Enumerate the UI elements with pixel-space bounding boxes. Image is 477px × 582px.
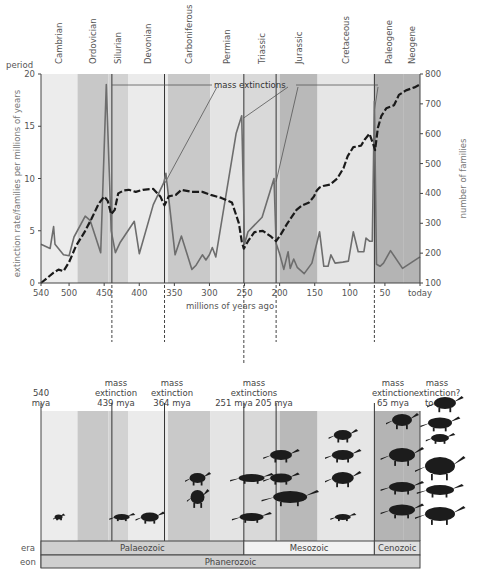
- x-tick-label: 300: [201, 288, 217, 298]
- period-band-permian: [210, 74, 244, 283]
- mammal-9-icon: [415, 506, 466, 525]
- timeline-band-permian: [210, 411, 244, 541]
- timeline-label: 540: [33, 388, 49, 398]
- timeline-label: 364 mya: [153, 398, 190, 408]
- period-label-carboniferous: Carboniferous: [184, 4, 194, 64]
- period-label-neogene: Neogene: [407, 26, 417, 64]
- x-tick-label: 200: [272, 288, 288, 298]
- period-label-cretaceous: Cretaceous: [341, 15, 351, 64]
- x-tick-label: 350: [166, 288, 182, 298]
- x-tick-label: 50: [379, 288, 390, 298]
- timeline-label: mass: [161, 378, 184, 388]
- timeline-band-cambrian: [41, 411, 77, 541]
- y-tick-label-right: 700: [425, 99, 441, 109]
- y-axis-title-right: number of families: [458, 138, 468, 219]
- geologic-timeline: 540myamassextinction439 myamassextinctio…: [20, 285, 465, 568]
- y-tick-label-right: 600: [425, 129, 441, 139]
- x-axis-title: millions of years ago: [186, 301, 274, 311]
- timeline-label: extinctions: [231, 388, 278, 398]
- y-axis-title-left: extinction rate/families per millions of…: [12, 89, 22, 277]
- timeline-labels: 540myamassextinction439 myamassextinctio…: [32, 378, 461, 408]
- x-tick-label: today: [408, 288, 432, 298]
- era-label-mesozoic: Mesozoic: [290, 543, 329, 553]
- timeline-band-devonian: [128, 411, 168, 541]
- y-tick-label-right: 300: [425, 218, 441, 228]
- timeline-label: 65 mya: [377, 398, 409, 408]
- x-tick-label: 400: [131, 288, 147, 298]
- timeline-label: extinction: [372, 388, 414, 398]
- period-band-cretaceous: [318, 74, 375, 283]
- timeline-label: mass: [105, 378, 128, 388]
- timeline-bands: [41, 411, 420, 541]
- timeline-label: 439 mya: [97, 398, 134, 408]
- period-labels: periodCambrianOrdovicianSilurianDevonian…: [6, 4, 417, 70]
- era-eon-bars: eraeonPalaeozoicMesozoicCenozoicPhaneroz…: [20, 541, 420, 568]
- mass-extinction-chart: periodCambrianOrdovicianSilurianDevonian…: [0, 0, 477, 582]
- x-tick-label: 540: [33, 288, 49, 298]
- timeline-band-silurian: [108, 411, 128, 541]
- x-tick-label: 250: [236, 288, 252, 298]
- period-label-silurian: Silurian: [113, 32, 123, 64]
- timeline-label: extinction: [95, 388, 137, 398]
- y-tick-label-left: 15: [24, 121, 35, 131]
- timeline-label: mass: [426, 378, 449, 388]
- period-label-cambrian: Cambrian: [54, 23, 64, 64]
- timeline-band-paleogene: [374, 411, 403, 541]
- extinction-rate-plot: mass extinctions 05101520100200300400500…: [12, 69, 468, 311]
- mass-extinctions-label: mass extinctions: [214, 80, 286, 90]
- timeline-label: extinction?: [414, 388, 461, 398]
- period-label-paleogene: Paleogene: [384, 20, 394, 64]
- period-band-neogene: [404, 74, 420, 283]
- mammal-7-icon: [415, 456, 466, 480]
- period-band-cambrian: [41, 74, 77, 283]
- y-tick-label-left: 10: [24, 174, 35, 184]
- period-label-ordovician: Ordovician: [88, 18, 98, 64]
- timeline-label: 251 mya 205 mya: [215, 398, 293, 408]
- era-axis-label: era: [21, 543, 35, 553]
- period-band-silurian: [108, 74, 128, 283]
- y-tick-label-left: 0: [30, 278, 35, 288]
- era-label-palaeozoic: Palaeozoic: [120, 543, 165, 553]
- y-tick-label-right: 500: [425, 159, 441, 169]
- era-label-cenozoic: Cenozoic: [378, 543, 417, 553]
- period-band-jurassic: [280, 74, 318, 283]
- timeline-band-neogene: [404, 411, 420, 541]
- mammal-8-icon: [417, 484, 464, 498]
- mammal-5-icon: [420, 417, 460, 432]
- mammal-6-icon: [426, 433, 456, 444]
- x-tick-label: 100: [342, 288, 358, 298]
- x-tick-label: 150: [307, 288, 323, 298]
- period-label-permian: Permian: [222, 29, 232, 64]
- timeline-label: extinction: [151, 388, 193, 398]
- y-tick-label-left: 20: [24, 69, 35, 79]
- y-tick-label-left: 5: [30, 226, 35, 236]
- x-tick-label: 500: [61, 288, 77, 298]
- x-tick-label: 450: [96, 288, 112, 298]
- timeline-label: mass: [243, 378, 266, 388]
- eon-axis-label: eon: [20, 557, 36, 567]
- y-tick-label-right: 400: [425, 188, 441, 198]
- timeline-band-ordovician: [77, 411, 108, 541]
- eon-label: Phanerozoic: [205, 557, 257, 567]
- y-tick-label-right: 800: [425, 69, 441, 79]
- period-label-triassic: Triassic: [257, 33, 267, 65]
- y-tick-label-right: 100: [425, 278, 441, 288]
- timeline-label: mass: [382, 378, 405, 388]
- period-label-jurassic: Jurassic: [294, 31, 304, 65]
- period-label-devonian: Devonian: [143, 24, 153, 64]
- period-band-devonian: [128, 74, 168, 283]
- y-tick-label-right: 200: [425, 248, 441, 258]
